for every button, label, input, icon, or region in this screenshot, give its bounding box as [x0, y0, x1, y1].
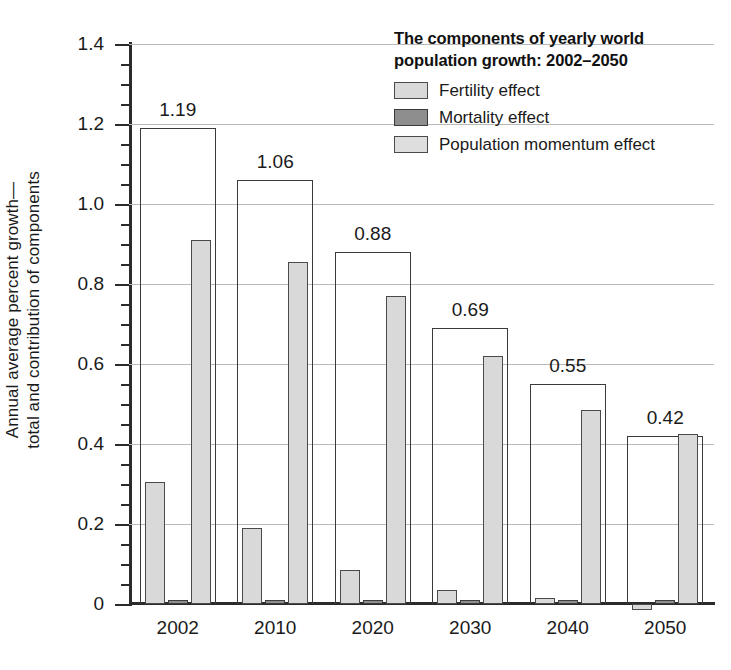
y-tick-label: 1.4: [58, 34, 104, 53]
y-tick-label: 0.2: [58, 514, 104, 533]
legend-item: Population momentum effect: [394, 133, 724, 156]
bar-fertility-effect: [145, 482, 165, 604]
y-axis-title-line-2: total and contribution of components: [24, 171, 45, 449]
total-value-label: 1.06: [217, 152, 333, 171]
gridline: [129, 444, 714, 445]
total-value-label: 0.42: [607, 408, 723, 427]
legend-title-line-1: The components of yearly world: [394, 28, 724, 50]
y-tick-major: [115, 604, 130, 606]
y-tick-label: 1.0: [58, 194, 104, 213]
total-value-label: 0.55: [510, 356, 626, 375]
legend-swatch-dark-gray-swatch: [394, 109, 428, 126]
legend-item-label: Population momentum effect: [439, 136, 655, 153]
y-tick-major: [115, 364, 130, 366]
y-tick-major: [115, 524, 130, 526]
bar-population-momentum-effect: [288, 262, 308, 604]
y-tick-major: [115, 284, 130, 286]
bar-population-momentum-effect: [191, 240, 211, 604]
x-tick-label: 2010: [227, 618, 325, 637]
y-tick-label: 0.8: [58, 274, 104, 293]
bar-population-momentum-effect: [483, 356, 503, 604]
y-tick-major: [115, 44, 130, 46]
total-value-label: 0.88: [315, 224, 431, 243]
y-tick-label: 0.6: [58, 354, 104, 373]
legend-item: Mortality effect: [394, 106, 724, 129]
bar-fertility-effect: [632, 604, 652, 610]
bar-mortality-effect: [168, 600, 188, 604]
bar-fertility-effect: [437, 590, 457, 604]
population-growth-chart: Annual average percent growth— total and…: [0, 0, 731, 670]
legend-title: The components of yearly world populatio…: [394, 28, 724, 72]
x-tick-label: 2002: [129, 618, 227, 637]
legend-items: Fertility effectMortality effectPopulati…: [394, 79, 724, 156]
bar-mortality-effect: [460, 600, 480, 604]
y-axis-title-line-1: Annual average percent growth—: [3, 171, 24, 449]
legend-title-line-2: population growth: 2002–2050: [394, 50, 724, 72]
y-tick-major: [115, 124, 130, 126]
y-axis-title: Annual average percent growth— total and…: [0, 10, 48, 610]
legend-swatch-light-gray-swatch: [394, 82, 428, 99]
bar-population-momentum-effect: [678, 434, 698, 604]
bar-mortality-effect: [558, 600, 578, 604]
gridline: [129, 364, 714, 365]
bar-fertility-effect: [242, 528, 262, 604]
y-tick-label: 0: [58, 594, 104, 613]
y-tick-label: 0.4: [58, 434, 104, 453]
bar-group: [140, 44, 216, 604]
bar-fertility-effect: [535, 598, 555, 604]
bar-mortality-effect: [363, 600, 383, 604]
gridline: [129, 284, 714, 285]
legend-item: Fertility effect: [394, 79, 724, 102]
x-tick-label: 2020: [324, 618, 422, 637]
y-axis-tick-labels: 00.20.40.60.81.01.21.4: [52, 0, 104, 670]
bar-population-momentum-effect: [386, 296, 406, 604]
total-value-label: 0.69: [412, 300, 528, 319]
legend-item-label: Fertility effect: [439, 82, 540, 99]
x-tick-label: 2050: [617, 618, 715, 637]
total-value-label: 1.19: [120, 100, 236, 119]
x-tick-label: 2030: [422, 618, 520, 637]
bar-fertility-effect: [340, 570, 360, 604]
y-tick-label: 1.2: [58, 114, 104, 133]
legend-swatch-light-gray-swatch: [394, 136, 428, 153]
bar-mortality-effect: [655, 600, 675, 604]
y-tick-major: [115, 444, 130, 446]
bar-mortality-effect: [265, 600, 285, 604]
bar-group: [237, 44, 313, 604]
y-tick-major: [115, 204, 130, 206]
legend-item-label: Mortality effect: [439, 109, 549, 126]
gridline: [129, 204, 714, 205]
gridline: [129, 524, 714, 525]
chart-legend: The components of yearly world populatio…: [394, 28, 724, 160]
x-tick-label: 2040: [519, 618, 617, 637]
bar-population-momentum-effect: [581, 410, 601, 604]
